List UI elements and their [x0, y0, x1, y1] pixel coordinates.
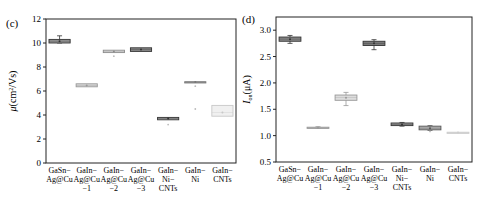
x-category-label: Ag@Cu: [361, 174, 387, 183]
box-0: [49, 36, 70, 43]
mean-marker: [113, 50, 115, 52]
y-tick-label: 2.5: [260, 52, 272, 62]
x-category-label: GaIn−: [158, 166, 179, 175]
y-tick-label: 8: [37, 62, 42, 72]
y-tick-label: 0: [37, 158, 42, 168]
mean-marker: [86, 85, 88, 87]
x-category-label: Ag@Cu: [128, 175, 154, 184]
x-category-label: CNTs: [213, 175, 232, 184]
x-category-label: −1: [82, 184, 91, 193]
outlier-point: [194, 85, 196, 87]
box-4: [158, 117, 179, 125]
figure: (c)024681012μ(cm2/Vs)GaSn−Ag@CuGaIn−Ag@C…: [0, 0, 478, 200]
x-category-label: GaIn−: [76, 166, 97, 175]
y-tick-label: 12: [32, 14, 41, 24]
x-category-label: GaIn−: [131, 166, 152, 175]
x-category-label: −2: [110, 184, 119, 193]
box-5: [185, 81, 206, 110]
x-category-label: GaIn−: [212, 166, 233, 175]
outlier-point: [167, 124, 169, 126]
y-tick-label: 3.0: [260, 25, 272, 35]
box-2: [335, 92, 357, 105]
y-tick-label: 2: [37, 134, 42, 144]
mean-marker: [59, 40, 61, 42]
box-5: [419, 126, 441, 133]
mean-marker: [373, 42, 375, 44]
x-category-label: GaIn−: [420, 165, 441, 174]
x-category-label: GaIn−: [448, 165, 469, 174]
mean-marker: [401, 124, 403, 126]
box-6: [212, 105, 233, 116]
x-category-label: Ag@Cu: [101, 175, 127, 184]
box-iqr: [212, 105, 233, 116]
box-0: [279, 35, 301, 43]
box-1: [307, 127, 329, 129]
mean-marker: [221, 112, 223, 114]
box-2: [103, 50, 124, 57]
x-category-label: GaIn−: [308, 165, 329, 174]
x-category-label: GaIn−: [104, 166, 125, 175]
y-tick-label: 4: [37, 110, 42, 120]
x-category-label: CNTs: [449, 174, 468, 183]
x-category-label: GaIn−: [336, 165, 357, 174]
x-category-label: Ag@Cu: [333, 174, 359, 183]
mean-marker: [140, 49, 142, 51]
y-tick-label: 1.5: [260, 104, 272, 114]
x-category-label: Ni: [191, 175, 200, 184]
x-category-label: Ag@Cu: [305, 174, 331, 183]
x-category-label: −3: [370, 183, 379, 192]
panel-label: (c): [6, 17, 19, 30]
y-tick-label: 1.0: [260, 131, 272, 141]
mean-marker: [167, 118, 169, 120]
y-tick-label: 2.0: [260, 78, 272, 88]
outlier-point: [194, 108, 196, 110]
outlier-point: [429, 131, 431, 133]
mean-marker: [429, 127, 431, 129]
x-category-label: GaSn−: [48, 166, 71, 175]
box-3: [363, 40, 385, 50]
plot-frame: [276, 17, 472, 162]
x-category-label: −1: [314, 183, 323, 192]
y-axis-title: Ion(μA): [241, 75, 253, 105]
mean-marker: [194, 81, 196, 83]
mean-marker: [457, 131, 459, 133]
x-category-label: Ni−: [396, 174, 409, 183]
box-4: [391, 122, 413, 126]
box-6: [447, 131, 469, 133]
mean-marker: [317, 127, 319, 129]
x-category-label: Ag@Cu: [46, 175, 72, 184]
x-category-label: CNTs: [393, 183, 412, 192]
mean-marker: [345, 97, 347, 99]
chart-panel-d: (d)0.51.01.52.02.53.0Ion(μA)GaSn−Ag@CuGa…: [241, 13, 472, 192]
chart-panel-c: (c)024681012μ(cm2/Vs)GaSn−Ag@CuGaIn−Ag@C…: [6, 14, 236, 193]
x-category-label: −2: [342, 183, 351, 192]
x-category-label: GaIn−: [185, 166, 206, 175]
x-category-label: Ni−: [162, 175, 175, 184]
x-category-label: Ag@Cu: [73, 175, 99, 184]
y-tick-label: 10: [32, 38, 42, 48]
mean-marker: [289, 38, 291, 40]
outlier-point: [113, 55, 115, 57]
x-category-label: Ni: [426, 174, 435, 183]
x-category-label: CNTs: [159, 184, 178, 193]
y-tick-label: 0.5: [260, 157, 272, 167]
y-tick-label: 6: [37, 86, 42, 96]
x-category-label: GaSn−: [279, 165, 302, 174]
plot-frame: [46, 19, 236, 163]
y-axis-title: μ(cm2/Vs): [7, 71, 19, 113]
x-category-label: GaIn−: [364, 165, 385, 174]
box-3: [130, 48, 151, 52]
box-1: [76, 84, 97, 87]
x-category-label: Ag@Cu: [277, 174, 303, 183]
panel-label: (d): [242, 13, 255, 26]
x-category-label: GaIn−: [392, 165, 413, 174]
x-category-label: −3: [137, 184, 146, 193]
